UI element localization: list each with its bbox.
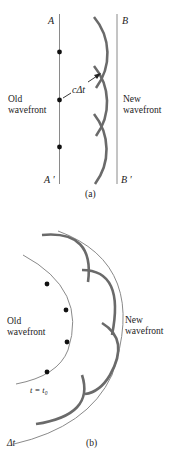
figure-a: A B A ′ B ′ cΔt Old wavefront New wavefr… xyxy=(8,14,162,200)
wavelet-arc-b2 xyxy=(82,270,115,335)
wavelet-arc-b1 xyxy=(42,235,89,282)
source-point-2 xyxy=(57,98,62,103)
source-point-b3 xyxy=(65,340,70,345)
new-wavefront-label-b-line1: New xyxy=(125,315,143,325)
figure-b: Old wavefront New wavefront t = t₀ Δt (b… xyxy=(6,231,164,449)
huygens-diagram: A B A ′ B ′ cΔt Old wavefront New wavefr… xyxy=(0,0,178,461)
old-wavefront-label-b-line1: Old xyxy=(7,316,22,326)
old-wavefront-arc xyxy=(16,255,73,384)
caption-b: (b) xyxy=(86,438,97,449)
label-A-prime: A ′ xyxy=(43,174,55,185)
new-wavefront-envelope xyxy=(14,231,123,444)
new-wavefront-label-line1: New xyxy=(123,94,141,104)
time-label: t = t₀ xyxy=(30,385,48,395)
old-wavefront-label-b-line2: wavefront xyxy=(7,327,46,337)
caption-a: (a) xyxy=(85,189,96,200)
wavelet-arc-3 xyxy=(94,114,107,184)
old-wavefront-label-line1: Old xyxy=(8,94,23,104)
label-B-prime: B ′ xyxy=(121,174,133,185)
source-point-b4 xyxy=(45,370,50,375)
delta-t-label: Δt xyxy=(6,438,16,448)
label-A: A xyxy=(47,15,55,26)
distance-label: cΔt xyxy=(72,84,85,95)
source-point-b1 xyxy=(45,282,50,287)
source-point-b2 xyxy=(64,308,69,313)
cdt-arrow-shaft-lower xyxy=(63,93,71,98)
old-wavefront-label-line2: wavefront xyxy=(8,105,47,115)
new-wavefront-label-b-line2: wavefront xyxy=(125,326,164,336)
source-point-3 xyxy=(57,145,62,150)
label-B: B xyxy=(122,15,128,26)
new-wavefront-label-line2: wavefront xyxy=(123,105,162,115)
wavelet-arc-b3 xyxy=(85,323,118,394)
source-point-1 xyxy=(57,50,62,55)
